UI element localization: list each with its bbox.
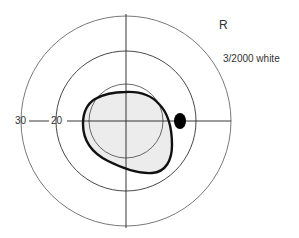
blind-spot	[174, 113, 186, 129]
axis-label-30: 30	[15, 116, 26, 126]
visual-field-chart	[0, 0, 299, 238]
eye-label: R	[219, 19, 228, 31]
axis-label-20: 20	[51, 116, 62, 126]
stimulus-label: 3/2000 white	[223, 54, 280, 64]
